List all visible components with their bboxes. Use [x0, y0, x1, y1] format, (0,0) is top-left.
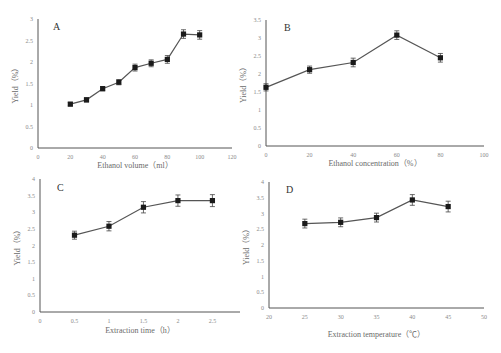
y-tick-label: 1.5: [26, 81, 34, 87]
data-point-marker: [149, 61, 154, 66]
y-tick-label: 3.5: [254, 17, 262, 23]
y-tick-label: 1: [258, 107, 261, 113]
y-tick-label: 0.5: [257, 289, 265, 295]
data-point-marker: [72, 233, 77, 238]
data-point-marker: [351, 60, 356, 65]
panel-label: A: [53, 21, 61, 32]
data-point-marker: [394, 33, 399, 38]
data-point-marker: [132, 65, 137, 70]
x-tick-label: 120: [228, 154, 237, 160]
y-tick-label: 3: [258, 35, 261, 41]
y-tick-label: 1.5: [257, 258, 265, 264]
x-tick-label: 20: [266, 314, 272, 320]
panel-d: 00.511.522.533.5420253035404550Extractio…: [242, 179, 487, 339]
y-tick-label: 2: [258, 71, 261, 77]
panel-b: 00.511.522.533.5020406080100Ethanol conc…: [239, 17, 489, 168]
x-tick-label: 100: [195, 154, 204, 160]
data-point-marker: [302, 221, 307, 226]
y-tick-label: 3.5: [257, 195, 265, 201]
x-axis-label: Extraction temperature（℃）: [328, 330, 426, 339]
x-tick-label: 40: [409, 314, 415, 320]
data-point-marker: [263, 85, 268, 90]
y-tick-label: 0: [30, 145, 33, 151]
data-point-marker: [175, 198, 180, 203]
x-tick-label: 80: [437, 152, 443, 158]
x-axis-label: Ethanol concentration（%）: [328, 159, 421, 168]
y-tick-label: 3: [261, 211, 264, 217]
x-axis-label: Extraction time（h）: [105, 326, 175, 335]
x-tick-label: 60: [394, 152, 400, 158]
x-tick-label: 2.5: [209, 318, 217, 324]
y-tick-label: 2.5: [28, 226, 36, 232]
panel-label: B: [284, 22, 291, 33]
y-tick-label: 0.5: [26, 124, 34, 130]
x-tick-label: 35: [374, 314, 380, 320]
x-tick-label: 0: [37, 154, 40, 160]
x-tick-label: 0: [39, 318, 42, 324]
y-tick-label: 2: [261, 242, 264, 248]
panel-label: D: [286, 184, 293, 195]
y-tick-label: 0.5: [254, 125, 262, 131]
y-tick-label: 1: [261, 274, 264, 280]
data-point-marker: [197, 32, 202, 37]
data-point-marker: [68, 102, 73, 107]
x-tick-label: 40: [100, 154, 106, 160]
data-point-marker: [106, 224, 111, 229]
y-axis-label: Yield（%）: [13, 226, 22, 266]
x-tick-label: 1: [107, 318, 110, 324]
x-tick-label: 0: [265, 152, 268, 158]
y-tick-label: 1.5: [28, 259, 36, 265]
x-tick-label: 1.5: [140, 318, 148, 324]
data-point-marker: [374, 215, 379, 220]
x-tick-label: 50: [481, 314, 487, 320]
panel-a: 00.511.522.53020406080100120Ethanol volu…: [11, 16, 237, 170]
panel-c: 00.511.522.533.5400.511.522.5Extraction …: [13, 176, 240, 335]
x-tick-label: 20: [307, 152, 313, 158]
data-point-marker: [410, 197, 415, 202]
y-tick-label: 4: [261, 179, 264, 185]
y-tick-label: 2.5: [26, 38, 34, 44]
y-tick-label: 1: [32, 276, 35, 282]
data-point-marker: [338, 220, 343, 225]
data-point-marker: [307, 67, 312, 72]
x-tick-label: 20: [67, 154, 73, 160]
x-tick-label: 0.5: [71, 318, 79, 324]
data-point-marker: [446, 204, 451, 209]
panel-label: C: [57, 182, 64, 193]
chart-figure: 00.511.522.53020406080100120Ethanol volu…: [0, 0, 501, 353]
data-point-marker: [116, 80, 121, 85]
data-point-marker: [100, 86, 105, 91]
y-tick-label: 4: [32, 176, 35, 182]
y-axis-label: Yield（%）: [11, 64, 20, 104]
y-tick-label: 1: [30, 102, 33, 108]
y-tick-label: 2: [32, 243, 35, 249]
y-tick-label: 2.5: [257, 226, 265, 232]
y-tick-label: 3.5: [28, 193, 36, 199]
y-tick-label: 2.5: [254, 53, 262, 59]
y-tick-label: 3: [32, 209, 35, 215]
data-point-marker: [438, 55, 443, 60]
x-tick-label: 30: [338, 314, 344, 320]
y-axis-label: Yield（%）: [239, 63, 248, 103]
data-point-marker: [165, 57, 170, 62]
x-tick-label: 25: [302, 314, 308, 320]
y-tick-label: 0: [261, 305, 264, 311]
data-point-marker: [84, 97, 89, 102]
x-tick-label: 60: [132, 154, 138, 160]
x-tick-label: 100: [480, 152, 489, 158]
x-tick-label: 80: [164, 154, 170, 160]
y-tick-label: 0: [258, 143, 261, 149]
y-axis-label: Yield（%）: [242, 225, 251, 265]
x-axis-label: Ethanol volume（ml）: [97, 161, 172, 170]
data-point-marker: [210, 198, 215, 203]
data-point-marker: [141, 205, 146, 210]
x-tick-label: 45: [445, 314, 451, 320]
y-tick-label: 2: [30, 59, 33, 65]
y-tick-label: 3: [30, 16, 33, 22]
y-tick-label: 1.5: [254, 89, 262, 95]
x-tick-label: 2: [176, 318, 179, 324]
y-tick-label: 0: [32, 309, 35, 315]
x-tick-label: 40: [350, 152, 356, 158]
data-point-marker: [181, 31, 186, 36]
y-tick-label: 0.5: [28, 292, 36, 298]
